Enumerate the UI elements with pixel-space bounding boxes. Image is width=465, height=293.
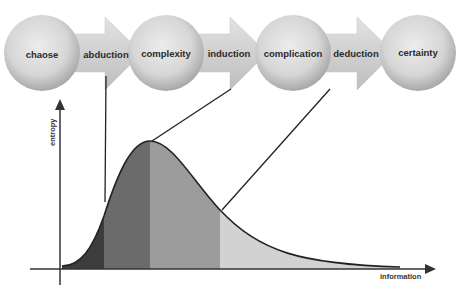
region-complication	[150, 130, 220, 270]
stage-label-complexity: complexity	[141, 48, 191, 59]
connector-deduction	[222, 89, 330, 210]
stage-label-certainty: certainty	[398, 47, 438, 58]
transition-label-abduction: abduction	[83, 49, 128, 60]
region-certainty	[220, 130, 410, 270]
curve-regions	[60, 130, 410, 270]
x-axis-arrowhead	[425, 264, 436, 274]
diagram-canvas	[0, 0, 465, 293]
y-axis-label: entropy	[48, 118, 57, 146]
transition-label-induction: induction	[208, 48, 251, 59]
stage-label-chaose: chaose	[26, 49, 59, 60]
region-complexity	[104, 130, 150, 270]
transition-label-deduction: deduction	[333, 48, 378, 59]
x-axis-label: information	[380, 272, 421, 281]
connector-abduction	[105, 76, 106, 202]
region-chaose	[60, 130, 104, 270]
y-axis-arrowhead	[55, 99, 65, 110]
connector-induction	[152, 89, 231, 141]
stage-label-complication: complication	[264, 48, 323, 59]
